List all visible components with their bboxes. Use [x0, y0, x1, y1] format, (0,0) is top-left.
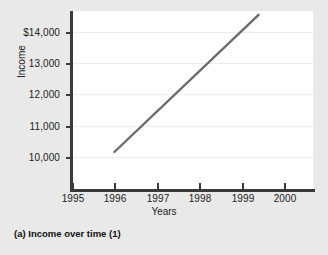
- y-axis-tick-label: 13,000: [29, 58, 60, 69]
- x-axis-tick: [242, 183, 244, 190]
- y-axis-tick: [66, 63, 72, 65]
- x-axis-line: [70, 189, 315, 192]
- x-axis-tick: [72, 183, 74, 190]
- y-axis-tick-label: $14,000: [23, 27, 60, 38]
- x-axis-tick: [157, 183, 159, 190]
- plot-area: [72, 11, 313, 190]
- y-axis-tick-label: 10,000: [29, 152, 60, 163]
- y-axis-tick: [66, 94, 72, 96]
- y-axis-title: Income: [16, 45, 27, 78]
- y-axis-line: [70, 11, 73, 192]
- y-axis-tick-label: 11,000: [30, 121, 60, 132]
- x-axis-tick: [199, 183, 201, 190]
- figure-income-over-time: $14,000 13,000 12,000 11,000 10,000 1995…: [0, 0, 328, 255]
- series-line-income: [72, 11, 313, 190]
- x-axis-tick-label: 1995: [62, 193, 85, 204]
- series-segment: [114, 15, 258, 152]
- x-axis-tick-label: 2000: [274, 193, 297, 204]
- y-axis-tick-label: 12,000: [29, 89, 60, 100]
- y-axis-tick: [66, 157, 72, 159]
- x-axis-tick: [284, 183, 286, 190]
- x-axis-tick-label: 1998: [189, 193, 212, 204]
- y-axis-tick: [66, 32, 72, 34]
- figure-caption: (a) Income over time (1): [14, 228, 121, 239]
- x-axis-tick-label: 1999: [232, 193, 255, 204]
- x-axis-tick-label: 1996: [104, 193, 127, 204]
- x-axis-tick-label: 1997: [147, 193, 170, 204]
- x-axis-tick: [114, 183, 116, 190]
- x-axis-title: Years: [0, 206, 328, 217]
- y-axis-tick: [66, 126, 72, 128]
